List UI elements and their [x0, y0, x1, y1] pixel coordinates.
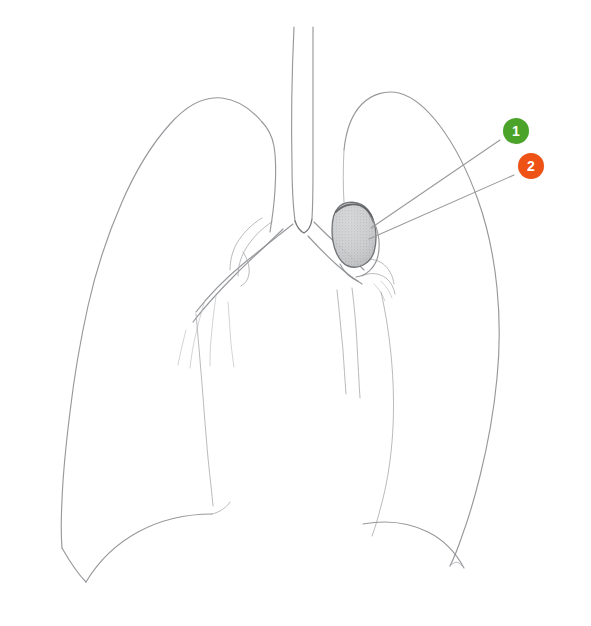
left-main-bronchus: [178, 218, 293, 368]
right-lung-outline: [343, 92, 499, 568]
shaded-hilar-mass: [325, 195, 385, 281]
lung-sketch-canvas: [0, 0, 591, 626]
lung-illustration-figure: 1 2: [0, 0, 591, 626]
trachea: [292, 27, 313, 221]
annotation-marker-2-label: 2: [527, 159, 535, 173]
leader-line-2: [369, 175, 514, 239]
carina: [295, 219, 312, 233]
annotation-marker-1-label: 1: [512, 124, 520, 138]
annotation-marker-2[interactable]: 2: [518, 153, 544, 179]
leader-line-1: [371, 140, 500, 228]
left-lung-outline: [61, 98, 275, 582]
annotation-marker-1[interactable]: 1: [503, 118, 529, 144]
leader-lines: [369, 140, 514, 239]
